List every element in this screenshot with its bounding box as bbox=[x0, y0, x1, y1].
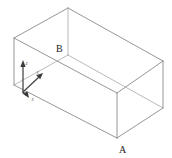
edge-bottom-left-to-bottom-front bbox=[14, 85, 117, 138]
edge-bottom-back-to-bottom-right-hidden bbox=[68, 55, 163, 108]
box-diagram-svg: z y x B A bbox=[0, 0, 172, 158]
vertex-label-a: A bbox=[119, 144, 127, 155]
box-bottom-face-edges bbox=[14, 55, 163, 138]
edge-top-right-to-top-front bbox=[117, 61, 163, 93]
edge-bottom-front-to-bottom-right bbox=[117, 108, 163, 138]
axis-z-label: z bbox=[25, 60, 28, 66]
edge-top-back-to-top-right bbox=[68, 8, 163, 61]
coordinate-axis-triad: z y x bbox=[20, 60, 43, 103]
vertex-label-b: B bbox=[56, 43, 63, 54]
edge-top-left-to-top-front bbox=[14, 38, 117, 93]
figure-container: z y x B A bbox=[0, 0, 172, 158]
edge-bottom-left-to-bottom-back-hidden bbox=[14, 55, 68, 85]
axis-x-label: x bbox=[31, 96, 35, 102]
edge-top-back-to-top-left bbox=[14, 8, 68, 38]
